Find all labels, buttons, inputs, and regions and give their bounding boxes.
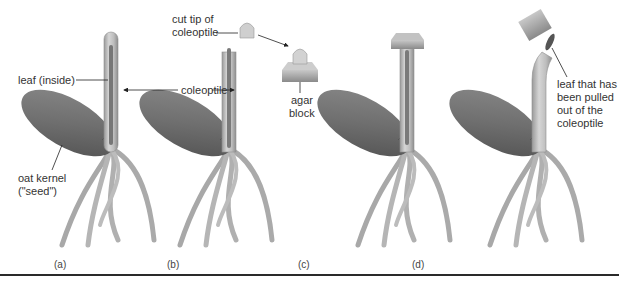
caption-c: (c) xyxy=(298,259,310,270)
label-kernel-line2: ("seed") xyxy=(18,185,57,198)
label-cut-tip-line2: coleoptile xyxy=(172,26,218,39)
label-leaf-inside: leaf (inside) xyxy=(18,74,75,87)
cut-tip xyxy=(240,23,254,38)
label-leaf-pulled-line2: been pulled xyxy=(557,91,614,104)
kernel-pointer xyxy=(52,145,62,170)
caption-d: (d) xyxy=(412,259,424,270)
label-agar-line2: block xyxy=(289,107,315,120)
panel-c-seedling xyxy=(307,33,450,245)
label-cut-tip-line1: cut tip of xyxy=(172,13,214,26)
label-leaf-pulled-line3: out of the xyxy=(557,104,603,117)
bottom-rule xyxy=(0,274,619,276)
label-agar-line1: agar xyxy=(291,94,313,107)
label-kernel-line1: oat kernel xyxy=(18,172,66,185)
caption-a: (a) xyxy=(54,259,66,270)
caption-b: (b) xyxy=(167,259,179,270)
transfer-arrow xyxy=(258,35,288,46)
oat-coleoptile-diagram xyxy=(0,0,619,285)
label-leaf-pulled-line4: coleoptile xyxy=(557,117,603,130)
panel-a-seedling xyxy=(11,32,154,245)
label-leaf-pulled-line1: leaf that has xyxy=(557,78,617,91)
label-coleoptile: coleoptile xyxy=(181,84,227,97)
agar-block-with-tip xyxy=(282,49,318,93)
